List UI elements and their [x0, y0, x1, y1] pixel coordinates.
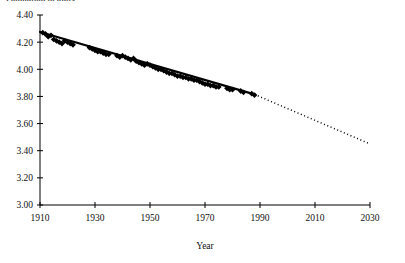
y-tick-label: 3.40	[16, 146, 33, 156]
x-tick-label: 1990	[251, 213, 270, 223]
y-tick-label: 3.20	[16, 173, 33, 183]
y-axis-ticks: 3.003.203.403.603.804.004.204.40	[16, 10, 43, 210]
chart-figure: Population in units 3.003.203.403.603.80…	[0, 0, 405, 263]
y-tick-label: 3.00	[16, 200, 33, 210]
y-tick-label: 4.20	[16, 38, 33, 48]
y-tick-label: 4.00	[16, 65, 33, 75]
x-tick-label: 1950	[141, 213, 160, 223]
scatter-plot-canvas: 3.003.203.403.603.804.004.204.40 1910193…	[0, 0, 405, 263]
x-tick-label: 2030	[361, 213, 380, 223]
x-tick-label: 1970	[196, 213, 215, 223]
x-tick-label: 1910	[31, 213, 50, 223]
x-axis-title: Year	[196, 241, 214, 251]
x-tick-label: 1930	[86, 213, 105, 223]
y-tick-label: 3.80	[16, 92, 33, 102]
data-points-group	[40, 30, 258, 98]
axes-group	[40, 15, 370, 205]
extrapolation-line-group	[255, 94, 371, 144]
y-tick-label: 3.60	[16, 119, 33, 129]
x-tick-label: 2010	[306, 213, 325, 223]
y-tick-label: 4.40	[16, 10, 33, 20]
